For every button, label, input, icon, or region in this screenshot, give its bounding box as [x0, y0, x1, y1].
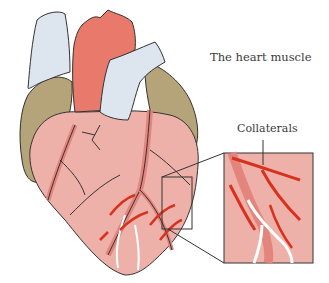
collaterals-label: Collaterals — [237, 122, 298, 135]
collaterals-callout — [224, 140, 313, 263]
heart-illustration — [0, 0, 329, 283]
figure-title: The heart muscle — [210, 50, 312, 64]
heart-body — [30, 111, 198, 275]
heart-diagram: The heart muscle Collaterals — [0, 0, 329, 283]
superior-vena-cava — [28, 12, 70, 89]
